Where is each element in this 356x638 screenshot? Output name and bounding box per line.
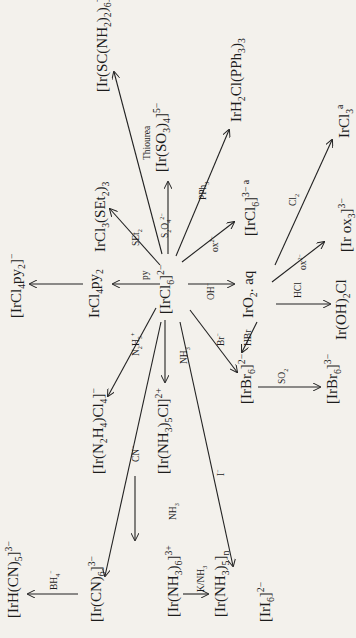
reagent-cl2: Cl2 — [288, 194, 300, 206]
reagent-nh3-a: NH3 — [179, 347, 191, 364]
species-ircl4py2-minus: [IrCl4py2]− — [6, 254, 27, 318]
species-irox3: [Ir ox3]3− — [336, 198, 356, 252]
reagent-bh4: BH4− — [48, 570, 61, 590]
center-species: [IrCl6]2− — [155, 265, 176, 314]
species-iro2-aq: IrO2. aq — [240, 271, 259, 318]
species-irbr6-2minus: [IrBr6]2− — [236, 354, 257, 404]
arrow-ox-ircl6 — [182, 222, 234, 262]
species-hcn5: [IrH(CN)5]3− — [3, 541, 24, 618]
reagent-cn: CN− — [130, 445, 141, 462]
species-iroh2cl: Ir(OH)2Cl — [333, 279, 352, 340]
reagent-iodide: I− — [215, 469, 226, 476]
reagent-hcl: HCl — [293, 282, 303, 298]
reagent-oh: OH− — [205, 283, 216, 300]
species-nh3-6: [Ir(NH3)6]3+ — [163, 545, 184, 617]
reagent-k-nh3: K/NH3 — [196, 566, 208, 592]
species-iri6: [IrI6]2− — [255, 582, 276, 622]
reagent-so2: SO2 — [277, 369, 289, 384]
reagent-set2: SEt2 — [131, 229, 143, 246]
species-irbr6-3minus: [IrBr6]3− — [322, 354, 343, 404]
species-ircl6-3minus: [IrCl6]3− a — [240, 180, 261, 236]
reagent-n2h5: N2H5+ — [130, 333, 143, 356]
species-nh3-5-n: [Ir(NH3)5]n — [212, 551, 231, 617]
reagent-pph3: PPh3 — [198, 182, 210, 200]
arrow-br — [190, 310, 237, 372]
reagent-nh3-b: NH3 — [168, 503, 180, 520]
species-ircl3: IrCl3a — [334, 105, 355, 138]
arrows-layer — [0, 0, 356, 638]
species-sulfite-product: [Ir(SO3)4]5− — [151, 103, 172, 172]
reagent-thiourea: Thiourea — [142, 126, 152, 160]
arrow-cl2 — [275, 140, 332, 265]
species-pph3-product: IrH2Cl(PPh3)3 — [228, 38, 247, 122]
species-ircl4py2: IrCl4py2 — [86, 269, 105, 318]
species-ircl3-set2: IrCl3(SEt2)3 — [92, 182, 111, 252]
reagent-ox-irox3: ox2− — [297, 254, 308, 270]
species-nh3-5-cl: [Ir(NH3)5Cl]2+ — [153, 388, 174, 474]
species-thiourea-product: [Ir(SC(NH2)2)6]3+ — [92, 0, 113, 92]
reaction-diagram: [IrCl6]2− [Ir(SC(NH2)2)6]3+ [Ir(SO3)4]5−… — [0, 0, 356, 638]
reagent-br: Br− — [215, 333, 226, 346]
reagent-hbr: HBr — [243, 330, 253, 346]
species-n2h4-cl4: [Ir(N2H4)Cl4]− — [88, 388, 109, 474]
reagent-py: py — [140, 271, 150, 281]
species-cn6: [Ir(CN)6]3− — [86, 556, 107, 622]
reagent-ox-ircl6: ox2− — [209, 236, 220, 252]
reagent-s2o4: S2O42− — [159, 213, 172, 238]
